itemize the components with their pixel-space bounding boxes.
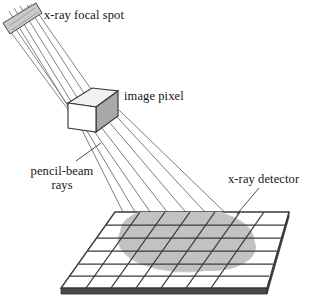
- detector-leader-line: [237, 188, 259, 214]
- upper-ray: [7, 27, 72, 115]
- diagram-canvas: [0, 0, 325, 304]
- label-image-pixel: image pixel: [124, 89, 184, 103]
- pencil-beam-leader-line: [76, 143, 101, 161]
- label-x-ray-focal-spot: x-ray focal spot: [44, 8, 124, 22]
- label-x-ray-detector: x-ray detector: [228, 172, 299, 186]
- figure-xray-pencil-beam: x-ray focal spot image pixel pencil-beam…: [0, 0, 325, 304]
- label-pencil-beam-rays: pencil-beam rays: [14, 164, 110, 192]
- label-pencil-beam-line1: pencil-beam: [14, 164, 110, 178]
- label-pencil-beam-line2: rays: [14, 178, 110, 192]
